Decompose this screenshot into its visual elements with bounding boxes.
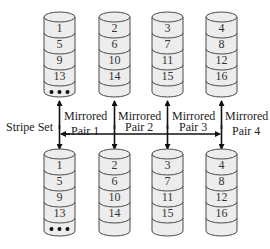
ellipsis-icon <box>50 227 70 231</box>
block: 12 <box>216 190 228 204</box>
block: 6 <box>112 37 118 51</box>
disk-pair1-mirror: 1 5 9 13 <box>44 149 75 236</box>
disk-pair3-primary: 3 7 11 15 <box>152 12 183 97</box>
block: 5 <box>57 37 63 51</box>
block: 13 <box>54 69 66 83</box>
block: 11 <box>162 190 174 204</box>
disk-pair4-primary: 4 8 12 16 <box>206 12 237 97</box>
block: 14 <box>109 206 121 220</box>
block: 13 <box>54 206 66 220</box>
pair2-label-line2: Pair 2 <box>125 120 153 134</box>
pair3-label-line2: Pair 3 <box>179 120 207 134</box>
block: 12 <box>216 53 228 67</box>
block: 1 <box>57 21 63 35</box>
disk-pair3-mirror: 3 7 11 15 <box>152 149 183 236</box>
block: 5 <box>57 174 63 188</box>
block: 15 <box>162 206 174 220</box>
stripe-set-label: Stripe Set <box>6 120 54 134</box>
pair1-label-line1: Mirrored <box>64 109 107 123</box>
block: 2 <box>112 158 118 172</box>
block: 15 <box>162 69 174 83</box>
block: 4 <box>219 158 225 172</box>
ellipsis-icon <box>50 90 70 94</box>
block: 6 <box>112 174 118 188</box>
disk-pair4-mirror: 4 8 12 16 <box>206 149 237 236</box>
raid10-diagram: 1 5 9 13 2 6 10 14 3 7 11 15 <box>0 0 270 249</box>
block: 2 <box>112 21 118 35</box>
block: 7 <box>165 174 171 188</box>
pair4-label-line2: Pair 4 <box>232 124 260 138</box>
pair4-label-line1: Mirrored <box>225 109 268 123</box>
block: 10 <box>109 190 121 204</box>
block: 8 <box>219 174 225 188</box>
block: 9 <box>57 190 63 204</box>
block: 3 <box>165 21 171 35</box>
block: 16 <box>216 206 228 220</box>
disk-pair2-mirror: 2 6 10 14 <box>99 149 130 236</box>
block: 4 <box>219 21 225 35</box>
block: 3 <box>165 158 171 172</box>
block: 11 <box>162 53 174 67</box>
block: 1 <box>57 158 63 172</box>
block: 8 <box>219 37 225 51</box>
block: 9 <box>57 53 63 67</box>
block: 16 <box>216 69 228 83</box>
block: 7 <box>165 37 171 51</box>
pair1-label-line2: Pair 1 <box>71 124 99 138</box>
block: 10 <box>109 53 121 67</box>
disk-pair2-primary: 2 6 10 14 <box>99 12 130 97</box>
disk-pair1-primary: 1 5 9 13 <box>44 12 75 97</box>
block: 14 <box>109 69 121 83</box>
